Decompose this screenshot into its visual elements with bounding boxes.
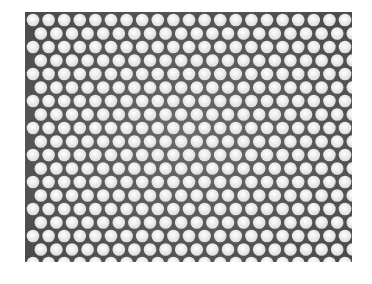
hole bbox=[81, 135, 94, 148]
hole bbox=[339, 149, 352, 162]
hole bbox=[284, 27, 297, 40]
hole bbox=[276, 95, 289, 108]
hole bbox=[105, 230, 118, 243]
hole bbox=[198, 122, 211, 135]
hole bbox=[261, 68, 274, 81]
hole bbox=[198, 176, 211, 189]
hole bbox=[66, 216, 79, 229]
hole bbox=[97, 243, 110, 256]
hole bbox=[284, 162, 297, 175]
hole bbox=[245, 41, 258, 54]
hole bbox=[300, 135, 313, 148]
hole bbox=[253, 108, 266, 121]
hole bbox=[284, 81, 297, 94]
hole bbox=[27, 176, 40, 189]
hole bbox=[214, 41, 227, 54]
hole bbox=[253, 189, 266, 202]
hole bbox=[253, 135, 266, 148]
hole bbox=[89, 122, 102, 135]
hole bbox=[58, 95, 71, 108]
hole bbox=[159, 54, 172, 67]
hole bbox=[191, 162, 204, 175]
hole bbox=[253, 81, 266, 94]
hole bbox=[191, 27, 204, 40]
hole bbox=[35, 135, 48, 148]
hole bbox=[89, 203, 102, 216]
hole bbox=[27, 95, 40, 108]
hole bbox=[105, 41, 118, 54]
hole bbox=[269, 135, 282, 148]
hole bbox=[113, 216, 126, 229]
hole bbox=[159, 135, 172, 148]
hole bbox=[206, 135, 219, 148]
hole bbox=[175, 108, 188, 121]
hole bbox=[276, 41, 289, 54]
hole bbox=[191, 189, 204, 202]
hole bbox=[222, 216, 235, 229]
hole bbox=[261, 14, 274, 27]
hole bbox=[58, 203, 71, 216]
hole bbox=[237, 216, 250, 229]
hole bbox=[120, 149, 133, 162]
hole bbox=[152, 230, 165, 243]
hole bbox=[237, 54, 250, 67]
hole bbox=[261, 230, 274, 243]
hole bbox=[323, 149, 336, 162]
hole bbox=[144, 189, 157, 202]
hole bbox=[35, 54, 48, 67]
hole bbox=[269, 243, 282, 256]
hole bbox=[198, 230, 211, 243]
hole bbox=[331, 162, 344, 175]
hole bbox=[261, 176, 274, 189]
hole bbox=[120, 203, 133, 216]
hole bbox=[120, 176, 133, 189]
hole bbox=[183, 95, 196, 108]
hole bbox=[276, 230, 289, 243]
hole bbox=[292, 95, 305, 108]
hole bbox=[97, 162, 110, 175]
hole bbox=[300, 54, 313, 67]
hole bbox=[58, 230, 71, 243]
hole bbox=[206, 216, 219, 229]
hole bbox=[323, 68, 336, 81]
hole bbox=[144, 162, 157, 175]
hole bbox=[214, 203, 227, 216]
hole bbox=[300, 108, 313, 121]
hole bbox=[105, 95, 118, 108]
hole bbox=[66, 135, 79, 148]
hole bbox=[237, 135, 250, 148]
hole bbox=[89, 230, 102, 243]
hole bbox=[222, 81, 235, 94]
hole bbox=[66, 162, 79, 175]
hole bbox=[136, 122, 149, 135]
hole bbox=[128, 54, 141, 67]
hole bbox=[128, 162, 141, 175]
hole bbox=[245, 149, 258, 162]
hole bbox=[144, 216, 157, 229]
hole bbox=[27, 68, 40, 81]
hole bbox=[245, 230, 258, 243]
hole bbox=[144, 81, 157, 94]
hole bbox=[315, 162, 328, 175]
hole bbox=[159, 27, 172, 40]
hole bbox=[308, 149, 321, 162]
hole bbox=[128, 135, 141, 148]
hole bbox=[105, 14, 118, 27]
hole bbox=[136, 68, 149, 81]
hole bbox=[128, 108, 141, 121]
hole bbox=[81, 243, 94, 256]
hole bbox=[97, 54, 110, 67]
hole bbox=[331, 54, 344, 67]
hole bbox=[269, 27, 282, 40]
hole bbox=[74, 230, 87, 243]
hole bbox=[167, 230, 180, 243]
hole bbox=[105, 122, 118, 135]
hole bbox=[152, 95, 165, 108]
hole bbox=[230, 176, 243, 189]
hole bbox=[81, 27, 94, 40]
hole bbox=[331, 108, 344, 121]
hole bbox=[315, 243, 328, 256]
hole bbox=[331, 243, 344, 256]
hole bbox=[183, 41, 196, 54]
hole bbox=[175, 162, 188, 175]
